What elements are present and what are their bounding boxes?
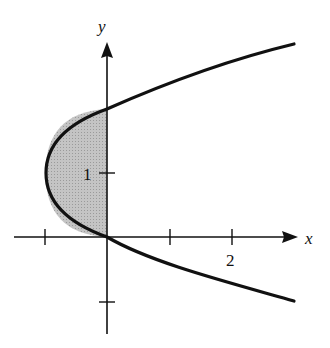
y-axis-label: y (96, 17, 106, 36)
parabola-chart: y x 2 1 (0, 0, 330, 348)
x-tick-label-2: 2 (226, 251, 235, 270)
y-tick-label-1: 1 (83, 165, 92, 184)
y-axis-arrow-icon (101, 42, 113, 58)
x-axis-label: x (304, 229, 313, 248)
shaded-region-fill (46, 109, 107, 237)
x-axis-arrow-icon (282, 231, 298, 243)
